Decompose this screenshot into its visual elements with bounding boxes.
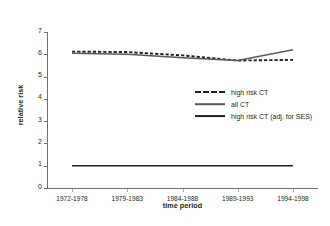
legend-item: high risk CT (adj. for SES) (195, 110, 327, 122)
y-tick-label: 3 (38, 116, 42, 123)
x-tick-label: 1994-1998 (253, 195, 330, 202)
y-axis-title: relative risk (14, 40, 28, 170)
legend-item: high risk CT (195, 86, 327, 98)
chart-legend: high risk CTall CThigh risk CT (adj. for… (195, 86, 327, 122)
y-tick-label: 2 (38, 138, 42, 145)
y-tick-label: 6 (38, 49, 42, 56)
y-tick-label: 7 (38, 27, 42, 34)
y-tick-label: 0 (38, 183, 42, 190)
legend-swatch-icon (195, 99, 225, 109)
y-tick-label: 4 (38, 93, 42, 100)
legend-label: all CT (225, 101, 249, 108)
line-chart: relative risk time period 01234567 1972-… (0, 0, 330, 226)
legend-item: all CT (195, 98, 327, 110)
legend-swatch-icon (195, 111, 225, 121)
y-tick-label: 1 (38, 160, 42, 167)
legend-swatch-icon (195, 87, 225, 97)
legend-label: high risk CT (225, 89, 268, 96)
y-tick-label: 5 (38, 71, 42, 78)
x-axis-title: time period (40, 201, 325, 210)
legend-label: high risk CT (adj. for SES) (225, 113, 312, 120)
